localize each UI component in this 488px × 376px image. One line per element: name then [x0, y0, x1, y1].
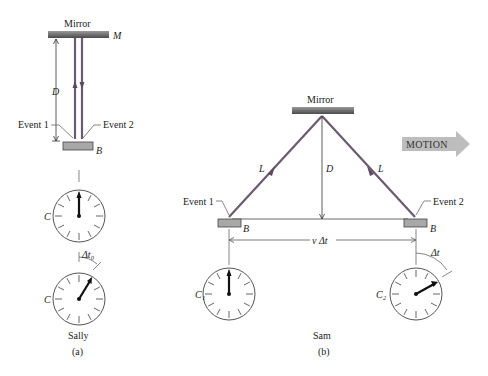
observer-label: Sam: [313, 330, 331, 341]
clock-bottom-label: C: [44, 294, 51, 305]
arrow-icon: [268, 166, 275, 176]
mirror-symbol: M: [112, 30, 122, 41]
clock-left-label: C₁: [195, 289, 205, 300]
distance-label: D: [325, 163, 334, 174]
path-right-label: L: [377, 163, 384, 174]
interval-label: Δt: [430, 247, 440, 258]
event1-label: Event 1: [183, 196, 214, 207]
clock-top: [53, 190, 105, 242]
observer-label: Sally: [68, 330, 89, 341]
motion-label: MOTION: [406, 139, 448, 150]
arrow-down-icon: [80, 82, 85, 89]
light-source-box: [63, 142, 93, 150]
source-box-left: [218, 219, 241, 227]
displacement-label: v Δt: [312, 235, 328, 246]
event2-label: Event 2: [433, 196, 464, 207]
distance-label: D: [51, 86, 60, 97]
box-left-label: B: [243, 223, 249, 234]
clock-top-label: C: [44, 211, 51, 222]
light-path-right: [322, 116, 415, 217]
panel-a: Mirror M D Event 1 Event 2 B: [18, 18, 134, 358]
interval-label: Δt₀: [81, 249, 95, 260]
clock-bottom: [53, 273, 105, 325]
event1-label: Event 1: [18, 119, 49, 130]
motion-arrow: MOTION: [402, 131, 470, 157]
clock-right-label: C₂: [376, 289, 387, 300]
box-label: B: [96, 145, 102, 156]
box-right-label: B: [430, 223, 436, 234]
path-left-label: L: [258, 163, 265, 174]
arrow-up-icon: [73, 81, 78, 88]
clock-right: [390, 268, 442, 320]
clock-left: [203, 268, 255, 320]
caption-a: (a): [72, 346, 83, 358]
mirror-label: Mirror: [307, 94, 334, 105]
caption-b: (b): [318, 346, 330, 358]
mirror-label: Mirror: [64, 18, 91, 29]
panel-b: Mirror L L D Event 1 Event 2 B B v Δt: [183, 94, 470, 358]
light-path-left: [229, 116, 322, 217]
event2-label: Event 2: [103, 119, 134, 130]
light-clock-diagram: Mirror M D Event 1 Event 2 B: [0, 0, 488, 376]
mirror: [48, 31, 109, 38]
source-box-right: [404, 219, 427, 227]
mirror: [292, 107, 354, 114]
